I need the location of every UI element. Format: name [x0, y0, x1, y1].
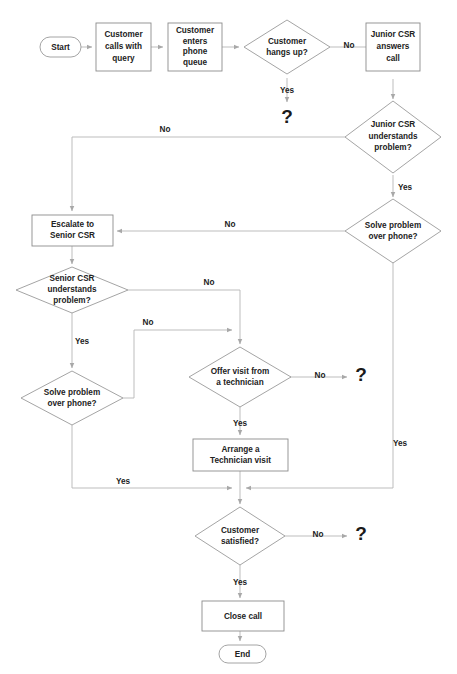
edge-label-junior-solve-no: No [225, 220, 236, 229]
node-senior-solve-line1: Solve problem [44, 388, 100, 397]
node-junior-answers-line3: call [386, 54, 400, 63]
node-junior-understands[interactable]: Junior CSR understands problem? [345, 101, 441, 173]
edge-label-junior-understands-yes: Yes [398, 183, 413, 192]
edge-label-hangs-up-no: No [344, 41, 355, 50]
node-customer-calls-line2: calls with [105, 42, 142, 51]
node-unknown-satisfied[interactable]: ? [355, 523, 367, 544]
edge-label-junior-solve-yes: Yes [393, 439, 408, 448]
node-senior-understands-line2: understands [47, 285, 97, 294]
node-arrange-visit-line2: Technician visit [210, 456, 271, 465]
node-hangs-up[interactable]: Customer hangs up? [244, 20, 330, 74]
node-offer-visit-line2: a technician [216, 378, 263, 387]
node-customer-satisfied[interactable]: Customer satisfied? [195, 507, 285, 565]
node-customer-satisfied-line1: Customer [221, 526, 260, 535]
edge-label-senior-solve-yes: Yes [116, 477, 131, 486]
node-customer-queue-line2: enters [183, 37, 208, 46]
node-end[interactable]: End [219, 645, 266, 663]
node-arrange-visit-line1: Arrange a [221, 445, 260, 454]
node-senior-understands[interactable]: Senior CSR understands problem? [16, 267, 128, 313]
node-senior-understands-line3: problem? [53, 296, 90, 305]
edge-label-hangs-up-yes: Yes [280, 86, 295, 95]
edge-label-senior-solve-no: No [143, 318, 154, 327]
node-start[interactable]: Start [40, 37, 81, 57]
question-mark-icon: ? [355, 364, 367, 385]
edge-label-senior-understands-yes: Yes [75, 337, 90, 346]
connector-senior-understands-no [128, 290, 240, 344]
node-start-label: Start [51, 43, 70, 52]
node-customer-calls-line1: Customer [104, 30, 143, 39]
edge-label-satisfied-no: No [313, 530, 324, 539]
question-mark-icon: ? [355, 523, 367, 544]
node-customer-queue-line1: Customer [176, 26, 215, 35]
node-senior-understands-line1: Senior CSR [49, 274, 94, 283]
node-junior-answers-line1: Junior CSR [371, 30, 416, 39]
edge-label-offer-visit-yes: Yes [233, 419, 248, 428]
connector-junior-understands-no [72, 137, 345, 211]
flowchart-canvas: Start Customer calls with query Customer… [0, 0, 457, 674]
node-junior-understands-line3: problem? [374, 143, 411, 152]
node-offer-visit[interactable]: Offer visit from a technician [189, 347, 291, 407]
node-arrange-visit[interactable]: Arrange a Technician visit [193, 439, 288, 471]
node-close-call[interactable]: Close call [202, 601, 284, 631]
node-junior-answers-line2: answers [377, 42, 410, 51]
node-customer-calls-line3: query [112, 54, 135, 63]
node-offer-visit-line1: Offer visit from [211, 367, 270, 376]
edge-label-junior-understands-no: No [160, 125, 171, 134]
edge-label-senior-understands-no: No [204, 278, 215, 287]
node-junior-understands-line2: understands [368, 132, 418, 141]
node-end-label: End [235, 650, 250, 659]
node-junior-answers[interactable]: Junior CSR answers call [366, 23, 420, 71]
node-customer-satisfied-line2: satisfied? [221, 537, 259, 546]
node-escalate-line1: Escalate to [51, 220, 94, 229]
node-escalate-line2: Senior CSR [50, 231, 95, 240]
flowchart-svg: Start Customer calls with query Customer… [0, 0, 457, 674]
node-customer-calls[interactable]: Customer calls with query [96, 23, 151, 71]
node-senior-solve[interactable]: Solve problem over phone? [21, 371, 123, 425]
node-close-call-label: Close call [224, 612, 262, 621]
node-senior-solve-line2: over phone? [47, 399, 96, 408]
node-hangs-up-line2: hangs up? [266, 48, 307, 57]
node-junior-understands-line1: Junior CSR [371, 120, 416, 129]
node-customer-queue-line4: queue [183, 58, 208, 67]
node-unknown-offer-visit[interactable]: ? [355, 364, 367, 385]
node-customer-queue[interactable]: Customer enters phone queue [168, 23, 222, 71]
node-junior-solve-line1: Solve problem [365, 221, 421, 230]
node-customer-queue-line3: phone [183, 47, 208, 56]
node-hangs-up-line1: Customer [268, 37, 307, 46]
node-junior-solve[interactable]: Solve problem over phone? [345, 199, 441, 263]
node-unknown-hangs-up[interactable]: ? [281, 106, 293, 127]
node-escalate[interactable]: Escalate to Senior CSR [32, 215, 113, 246]
edge-label-satisfied-yes: Yes [233, 578, 248, 587]
edge-label-offer-visit-no: No [315, 371, 326, 380]
question-mark-icon: ? [281, 106, 293, 127]
node-junior-solve-line2: over phone? [368, 232, 417, 241]
